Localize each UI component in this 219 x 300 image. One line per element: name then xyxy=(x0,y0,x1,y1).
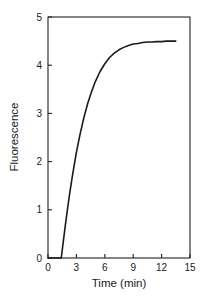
y-tick-label: 5 xyxy=(36,12,42,23)
y-tick-label: 1 xyxy=(36,204,42,215)
y-tick-label: 4 xyxy=(36,60,42,71)
y-tick-label: 3 xyxy=(36,108,42,119)
chart-background xyxy=(0,0,219,300)
x-axis-title: Time (min) xyxy=(92,277,147,289)
x-tick-label: 9 xyxy=(130,262,136,273)
x-tick-label: 0 xyxy=(45,262,51,273)
x-tick-label: 6 xyxy=(102,262,108,273)
y-tick-label: 0 xyxy=(36,253,42,264)
figure-container: 03691215 012345 Time (min) Fluorescence xyxy=(0,0,219,300)
y-tick-label: 2 xyxy=(36,156,42,167)
x-tick-label: 15 xyxy=(184,262,196,273)
x-tick-label: 12 xyxy=(156,262,168,273)
x-tick-label: 3 xyxy=(74,262,80,273)
y-axis-title: Fluorescence xyxy=(8,102,20,171)
fluorescence-time-chart: 03691215 012345 Time (min) Fluorescence xyxy=(0,0,219,300)
